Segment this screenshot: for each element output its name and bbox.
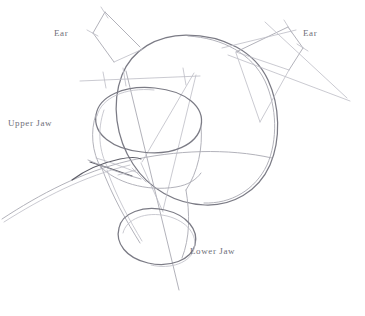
label-upper-jaw: Upper Jaw	[8, 118, 52, 128]
lower-jaw-ellipse	[118, 209, 196, 267]
sketch-page: Ear Ear Upper Jaw Lower Jaw	[0, 0, 365, 316]
muzzle-cylinder	[93, 110, 202, 190]
sketch-canvas	[0, 0, 365, 316]
label-ear-left: Ear	[54, 28, 68, 38]
horizontal-axis	[80, 68, 200, 88]
ear-left-quad	[87, 7, 143, 62]
cranium-sphere	[116, 35, 278, 205]
neck-curve	[2, 152, 272, 222]
ear-guide-lines	[222, 22, 350, 101]
label-lower-jaw: Lower Jaw	[190, 246, 235, 256]
label-ear-right: Ear	[303, 28, 317, 38]
upper-jaw-ellipse	[96, 88, 202, 153]
ear-right-quad	[236, 20, 308, 122]
lower-jaw-cone	[101, 166, 189, 258]
